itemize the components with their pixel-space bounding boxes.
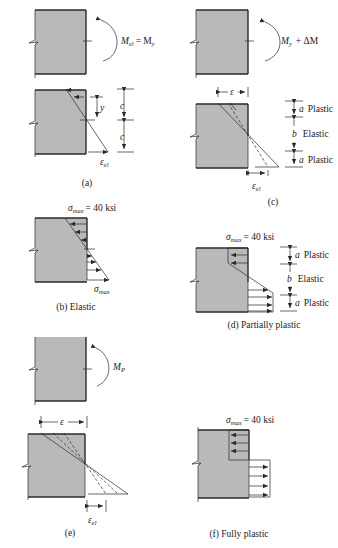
caption-e: (e) bbox=[65, 528, 76, 539]
caption-c: (c) bbox=[268, 197, 279, 208]
zone-c-2: bElastic bbox=[292, 129, 329, 139]
strain-el-label-c: εel bbox=[252, 181, 261, 192]
beam-section-a-bottom: y c c εel bbox=[29, 89, 134, 168]
panel-c: My+ ΔM ε εel aPlastic bElastic aPlastic bbox=[190, 10, 333, 208]
panel-a: Mel= My y c c εel bbox=[29, 10, 155, 189]
caption-d: (d) Partially plastic bbox=[228, 320, 301, 331]
y-label: y bbox=[99, 103, 105, 113]
strain-el-label: εel bbox=[100, 157, 109, 168]
stress-max-label-f: σmax= 40 ksi bbox=[226, 415, 275, 426]
caption-b: (b) Elastic bbox=[56, 302, 95, 313]
panel-e: MP ε εel (e) bbox=[22, 337, 128, 539]
stress-max-bottom-label-b: σmax bbox=[94, 284, 110, 295]
caption-f: (f) Fully plastic bbox=[209, 529, 268, 540]
zone-d-2: bElastic bbox=[287, 274, 324, 284]
caption-a: (a) bbox=[82, 178, 93, 189]
moment-label-a: Mel= My bbox=[120, 36, 155, 47]
zone-d-1: aPlastic bbox=[295, 250, 329, 260]
stress-max-label-b: σmax= 40 ksi bbox=[68, 203, 117, 214]
panel-d: σmax= 40 ksi aPlastic bElastic aPlastic … bbox=[190, 232, 329, 331]
zone-d-3: aPlastic bbox=[295, 298, 329, 308]
moment-label-c: My+ ΔM bbox=[280, 36, 319, 47]
zone-c-3: aPlastic bbox=[299, 155, 333, 165]
bending-stress-diagram: Mel= My y c c εel bbox=[0, 0, 338, 548]
zone-c-1: aPlastic bbox=[299, 104, 333, 114]
moment-label-e: MP bbox=[112, 362, 125, 373]
beam-section-a-top bbox=[29, 10, 92, 78]
panel-f: σmax= 40 ksi (f) Fully plastic bbox=[192, 415, 275, 540]
moment-arrow-a: Mel= My bbox=[101, 20, 155, 61]
strain-top-label-c: ε bbox=[230, 87, 234, 97]
strain-el-label-e: εel bbox=[88, 515, 97, 526]
strain-top-label-e: ε bbox=[60, 417, 64, 427]
panel-b: σmax= 40 ksi σmax (b) Elastic bbox=[29, 203, 117, 313]
stress-max-label-d: σmax= 40 ksi bbox=[226, 232, 275, 243]
